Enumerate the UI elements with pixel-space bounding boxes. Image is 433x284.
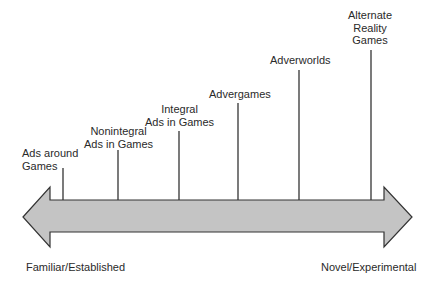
stage-label-nonintegral: Nonintegral Ads in Games — [84, 125, 153, 150]
stage-label-alternate-reality: Alternate Reality Games — [348, 9, 392, 47]
label-line: Ads in Games — [84, 138, 153, 151]
stage-label-advergames: Advergames — [209, 88, 271, 101]
stage-label-adverworlds: Adverworlds — [270, 54, 331, 67]
label-line: Advergames — [209, 88, 271, 101]
right-end-label: Novel/Experimental — [321, 261, 416, 273]
stage-label-ads-around-games: Ads around Games — [22, 147, 78, 172]
label-line: Games — [348, 34, 392, 47]
label-line: Ads in Games — [145, 116, 214, 129]
left-end-label: Familiar/Established — [26, 261, 125, 273]
label-line: Reality — [348, 22, 392, 35]
double-arrow — [23, 187, 412, 247]
label-line: Integral — [145, 103, 214, 116]
label-line: Nonintegral — [84, 125, 153, 138]
label-line: Games — [22, 160, 78, 173]
stage-label-integral: Integral Ads in Games — [145, 103, 214, 128]
label-line: Alternate — [348, 9, 392, 22]
label-line: Adverworlds — [270, 54, 331, 67]
continuum-diagram: Ads around Games Nonintegral Ads in Game… — [0, 0, 433, 284]
label-line: Ads around — [22, 147, 78, 160]
